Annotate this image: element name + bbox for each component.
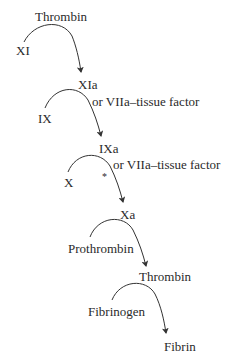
factor-ixa-label: IXa <box>99 142 119 155</box>
fibrinogen-label: Fibrinogen <box>88 305 145 318</box>
asterisk-mark: * <box>102 172 107 182</box>
viia-tissue-factor-label-2: or VIIa–tissue factor <box>113 158 220 171</box>
prothrombin-label: Prothrombin <box>68 242 134 255</box>
factor-xia-label: XIa <box>78 78 98 91</box>
factor-xi-label: XI <box>16 44 30 57</box>
viia-tissue-factor-label-1: or VIIa–tissue factor <box>92 95 199 108</box>
arrow-xi-to-xia <box>24 25 81 72</box>
arrows-layer <box>0 0 230 356</box>
factor-x-label: X <box>64 176 73 189</box>
fibrin-label: Fibrin <box>164 340 196 353</box>
factor-xa-label: Xa <box>120 208 135 221</box>
thrombin-label: Thrombin <box>139 270 191 283</box>
factor-ix-label: IX <box>38 112 52 125</box>
thrombin-label-top: Thrombin <box>35 10 87 23</box>
